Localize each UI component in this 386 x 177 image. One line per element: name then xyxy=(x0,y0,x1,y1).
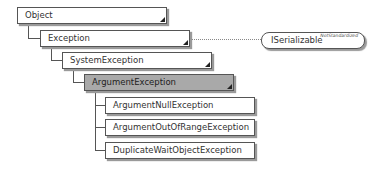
node-label: ArgumentOutOfRangeException xyxy=(113,122,249,132)
interface-annotation: NotStandardized xyxy=(320,32,358,40)
corner-marker-icon xyxy=(205,62,210,67)
connector-exception-system-v xyxy=(51,46,52,61)
node-object: Object xyxy=(17,7,167,24)
interface-iserializable: ISerializable NotStandardized xyxy=(261,32,365,49)
corner-marker-icon xyxy=(183,40,188,45)
node-label: Object xyxy=(25,10,53,20)
connector-object-exception-v xyxy=(28,24,29,39)
node-label: Exception xyxy=(48,33,90,43)
connector-duplicate-wait-h xyxy=(95,150,105,151)
interface-label: ISerializable xyxy=(271,35,323,45)
node-argument-null-exception: ArgumentNullException xyxy=(105,97,255,114)
connector-exception-system-h xyxy=(51,60,62,61)
connector-argument-range-h xyxy=(95,127,105,128)
node-label: ArgumentNullException xyxy=(113,100,213,110)
connector-system-argument-v xyxy=(73,68,74,83)
connector-argument-null-h xyxy=(95,105,105,106)
corner-marker-icon xyxy=(160,17,165,22)
node-label: ArgumentException xyxy=(92,77,176,87)
node-label: SystemException xyxy=(70,55,144,65)
node-argument-out-of-range-exception: ArgumentOutOfRangeException xyxy=(105,119,255,136)
node-label: DuplicateWaitObjectException xyxy=(113,145,242,155)
node-exception: Exception xyxy=(40,30,190,47)
connector-object-exception-h xyxy=(28,38,40,39)
connector-argument-children-v xyxy=(95,91,96,151)
node-argument-exception: ArgumentException xyxy=(84,74,234,91)
node-system-exception: SystemException xyxy=(62,52,212,69)
implements-connector xyxy=(192,39,261,40)
connector-system-argument-h xyxy=(73,82,84,83)
node-duplicate-wait-object-exception: DuplicateWaitObjectException xyxy=(105,142,255,159)
corner-marker-icon xyxy=(227,84,232,89)
